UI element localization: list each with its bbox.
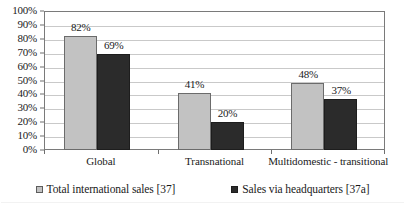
chart-legend: Total international sales [37] Sales via… [0, 180, 405, 198]
bar-series-1[interactable] [97, 54, 130, 150]
bar-value-label: 41% [185, 79, 205, 90]
y-tick-label: 10% [17, 130, 37, 141]
bar-value-label: 20% [218, 108, 238, 119]
legend-label: Sales via headquarters [37a] [242, 183, 369, 196]
y-tick-label: 20% [17, 116, 37, 127]
legend-label: Total international sales [37] [47, 183, 176, 196]
x-tick-label-global: Global [86, 155, 115, 168]
y-tick-label: 100% [12, 5, 37, 16]
bar-chart-figure: 100% 90% 80% 70% 60% 50% 40% 30% 20% 10%… [0, 0, 405, 207]
bar-value-label: 37% [331, 85, 351, 96]
bar-series-1[interactable] [211, 122, 244, 150]
x-tick-label-multidomestic-transitional: Multidomestic - transitional [268, 155, 388, 168]
bar-series-0[interactable] [64, 36, 97, 150]
y-tick-label: 80% [17, 33, 37, 44]
y-tick-label: 30% [17, 103, 37, 114]
x-axis-labels: Global Transnational Multidomestic - tra… [44, 155, 385, 171]
bars-layer: 82% 69% 41% 20% 48% 37% [44, 11, 385, 150]
bar-group: 41% 20% [158, 11, 272, 150]
bar-series-0[interactable] [178, 93, 211, 150]
y-tick-label: 90% [17, 19, 37, 30]
y-tick-label: 40% [17, 89, 37, 100]
y-tick-label: 60% [17, 61, 37, 72]
y-tick-label: 70% [17, 47, 37, 58]
x-tick-label-transnational: Transnational [185, 155, 244, 168]
bar-group: 48% 37% [271, 11, 385, 150]
legend-swatch-light-square-icon [36, 186, 43, 193]
bar-group: 82% 69% [44, 11, 158, 150]
x-tick-mark [158, 150, 159, 154]
bar-series-1[interactable] [324, 99, 357, 150]
x-tick-mark [384, 150, 385, 154]
y-tick-label: 0% [23, 144, 37, 155]
legend-swatch-dark-square-icon [231, 186, 238, 193]
bar-series-0[interactable] [291, 83, 324, 150]
y-tick-label: 50% [17, 75, 37, 86]
figure-bottom-hairline [1, 202, 404, 203]
legend-item-total-international-sales[interactable]: Total international sales [37] [36, 183, 176, 196]
legend-item-sales-via-headquarters[interactable]: Sales via headquarters [37a] [231, 183, 369, 196]
x-tick-mark [271, 150, 272, 154]
x-tick-mark [44, 150, 45, 154]
bar-value-label: 82% [71, 22, 91, 33]
bar-value-label: 69% [104, 40, 124, 51]
bar-value-label: 48% [298, 69, 318, 80]
y-axis: 100% 90% 80% 70% 60% 50% 40% 30% 20% 10%… [0, 11, 40, 150]
